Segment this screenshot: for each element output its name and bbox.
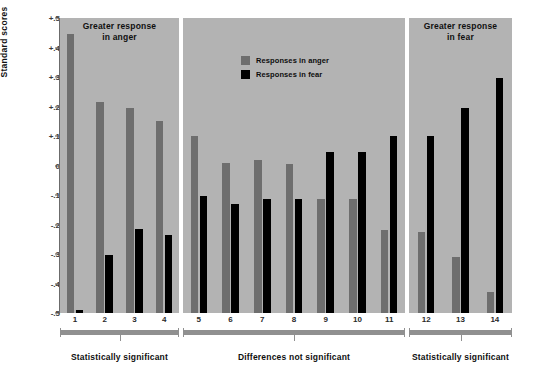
- panel-nonsig-bracket-label: Differences not significant: [238, 352, 350, 362]
- legend-item: Responses in anger: [241, 56, 329, 65]
- panel-title-line: in fear: [409, 32, 512, 43]
- bar-anger-9: [317, 199, 325, 313]
- y-tick-mark: [55, 18, 59, 19]
- panel-fear-title: Greater responsein fear: [409, 21, 512, 43]
- bar-fear-11: [390, 136, 398, 313]
- panel-title-line: Greater response: [60, 21, 179, 32]
- legend-item: Responses in fear: [241, 70, 329, 79]
- bracket-tick: [120, 335, 121, 341]
- bracket-cap: [60, 328, 61, 337]
- bar-anger-7: [254, 160, 262, 313]
- bar-fear-3: [135, 229, 143, 313]
- bar-fear-1: [76, 310, 84, 313]
- bar-anger-5: [191, 136, 199, 313]
- bracket-cap: [404, 328, 405, 337]
- y-tick-mark: [55, 165, 59, 166]
- x-tick-label-11: 11: [385, 315, 393, 324]
- bar-anger-13: [452, 257, 460, 313]
- y-tick-mark: [55, 47, 59, 48]
- y-tick-mark: [55, 254, 59, 255]
- bar-anger-2: [96, 102, 104, 313]
- bracket-tick: [461, 335, 462, 341]
- y-tick-mark: [55, 313, 59, 314]
- y-tick-mark: [55, 195, 59, 196]
- x-tick-label-2: 2: [102, 315, 106, 324]
- bar-anger-12: [418, 232, 426, 313]
- bracket-cap: [183, 328, 184, 337]
- bar-fear-5: [200, 196, 208, 313]
- bar-fear-14: [496, 78, 504, 313]
- x-tick-label-7: 7: [260, 315, 264, 324]
- bar-fear-6: [231, 204, 239, 313]
- bar-fear-12: [427, 136, 435, 313]
- bar-anger-10: [349, 199, 357, 313]
- x-tick-label-12: 12: [422, 315, 431, 324]
- y-tick-mark: [55, 106, 59, 107]
- bracket-cap: [409, 328, 410, 337]
- panel-anger-bracket-label: Statistically significant: [71, 352, 168, 362]
- y-tick-mark: [55, 136, 59, 137]
- x-tick-label-14: 14: [490, 315, 499, 324]
- bracket-cap: [511, 328, 512, 337]
- bar-fear-2: [105, 255, 113, 313]
- bar-anger-11: [381, 230, 389, 313]
- x-tick-label-5: 5: [197, 315, 201, 324]
- x-tick-label-8: 8: [292, 315, 296, 324]
- bar-anger-3: [126, 108, 134, 313]
- legend-label-fear: Responses in fear: [256, 70, 322, 79]
- y-tick-mark: [55, 77, 59, 78]
- bar-fear-10: [358, 152, 366, 313]
- bar-anger-8: [286, 164, 294, 313]
- y-tick-mark: [55, 224, 59, 225]
- y-tick-mark: [55, 283, 59, 284]
- x-tick-label-13: 13: [456, 315, 465, 324]
- bar-anger-14: [487, 292, 495, 313]
- bar-fear-8: [295, 199, 303, 313]
- bracket-tick: [294, 335, 295, 341]
- panel-title-line: in anger: [60, 32, 179, 43]
- bar-fear-4: [165, 235, 173, 313]
- y-axis-title: Standard scores: [0, 0, 9, 112]
- x-tick-label-9: 9: [323, 315, 327, 324]
- x-tick-label-3: 3: [132, 315, 136, 324]
- bar-fear-9: [326, 152, 334, 313]
- legend-swatch-anger: [241, 56, 250, 65]
- bar-fear-13: [461, 108, 469, 313]
- bar-anger-6: [222, 163, 230, 313]
- legend-swatch-fear: [241, 70, 250, 79]
- panel-fear-bracket-label: Statistically significant: [412, 352, 509, 362]
- x-tick-label-4: 4: [162, 315, 166, 324]
- x-tick-label-1: 1: [73, 315, 77, 324]
- chart-legend: Responses in anger Responses in fear: [241, 56, 329, 84]
- bar-chart: +.5+.4+.3+.2+.10-.1-.2-.3-.4-.5 Standard…: [0, 0, 558, 373]
- x-tick-label-6: 6: [228, 315, 232, 324]
- bar-fear-7: [263, 199, 271, 313]
- panel-title-line: Greater response: [409, 21, 512, 32]
- panel-anger-title: Greater responsein anger: [60, 21, 179, 43]
- bar-anger-1: [67, 34, 75, 313]
- bracket-cap: [178, 328, 179, 337]
- legend-label-anger: Responses in anger: [256, 56, 329, 65]
- bar-anger-4: [156, 121, 164, 313]
- x-tick-label-10: 10: [353, 315, 362, 324]
- y-axis: +.5+.4+.3+.2+.10-.1-.2-.3-.4-.5: [14, 0, 60, 373]
